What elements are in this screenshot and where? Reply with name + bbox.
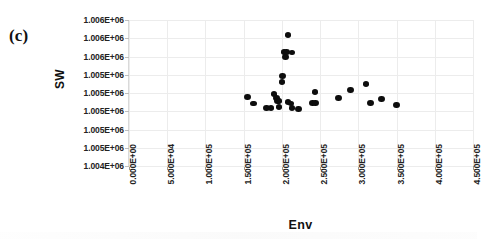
y-gridline: [129, 148, 473, 149]
y-axis-tick-label: 1.005E+06: [52, 125, 124, 135]
y-axis-tick: [125, 75, 129, 76]
y-axis-tick-label: 1.006E+06: [52, 33, 124, 43]
y-gridline: [129, 75, 473, 76]
scan-artifact-band: [0, 232, 477, 239]
scatter-point: [279, 73, 286, 79]
y-gridline: [129, 57, 473, 58]
y-gridline: [129, 38, 473, 39]
y-axis-tick-label: 1.005E+06: [52, 88, 124, 98]
y-axis-tick-label: 1.006E+06: [52, 15, 124, 25]
scatter-point: [289, 50, 296, 56]
scatter-point: [312, 100, 319, 106]
scatter-point: [347, 87, 354, 93]
y-axis-tick-label: 1.005E+06: [52, 106, 124, 116]
x-axis-tick-label: 3.000E+05: [357, 144, 367, 192]
x-axis-title: Env: [128, 218, 473, 232]
scatter-point: [279, 79, 286, 85]
scatter-point: [289, 105, 296, 111]
y-axis-tick: [125, 57, 129, 58]
scatter-point: [378, 96, 385, 102]
scatter-point: [268, 105, 275, 111]
x-axis-tick-label: 5.000E+04: [166, 144, 176, 192]
x-axis-tick-label: 1.500E+05: [243, 144, 253, 192]
y-axis-tick-label: 1.004E+06: [52, 161, 124, 171]
y-gridline: [129, 20, 473, 21]
scatter-point: [295, 106, 302, 112]
scatter-point: [276, 98, 283, 104]
scatter-point: [244, 94, 251, 100]
scatter-point: [250, 101, 257, 107]
y-axis-tick: [125, 93, 129, 94]
y-axis-tick: [125, 111, 129, 112]
y-axis-tick: [125, 38, 129, 39]
y-axis-tick-label: 1.005E+06: [52, 70, 124, 80]
x-axis-tick-label: 2.500E+05: [319, 144, 329, 192]
y-axis-tick-labels: 1.004E+061.005E+061.005E+061.005E+061.00…: [48, 20, 124, 167]
y-axis-tick-label: 1.006E+06: [52, 52, 124, 62]
y-gridline: [129, 166, 473, 167]
x-axis-tick-label: 4.000E+05: [434, 144, 444, 192]
scatter-point: [335, 95, 342, 101]
y-axis-tick-label: 1.005E+06: [52, 143, 124, 153]
scatter-point: [312, 89, 319, 95]
scatter-plot-area: [128, 20, 473, 167]
scatter-point: [363, 81, 370, 87]
y-axis-tick: [125, 130, 129, 131]
y-gridline: [129, 93, 473, 94]
scatter-point: [282, 54, 289, 60]
scatter-point: [367, 100, 374, 106]
x-axis-tick-labels: 0.000E+005.000E+041.000E+051.500E+052.00…: [128, 168, 473, 216]
scatter-point: [276, 104, 283, 110]
x-axis-tick-label: 1.000E+05: [204, 144, 214, 192]
panel-letter-label: (c): [9, 26, 28, 46]
x-axis-tick-label: 0.000E+00: [128, 144, 138, 192]
y-axis-tick: [125, 20, 129, 21]
x-axis-tick-label: 2.000E+05: [281, 144, 291, 192]
scatter-point: [393, 102, 400, 108]
y-gridline: [129, 130, 473, 131]
x-axis-tick-label: 4.500E+05: [472, 144, 482, 192]
x-axis-tick-label: 3.500E+05: [396, 144, 406, 192]
y-gridline: [129, 111, 473, 112]
